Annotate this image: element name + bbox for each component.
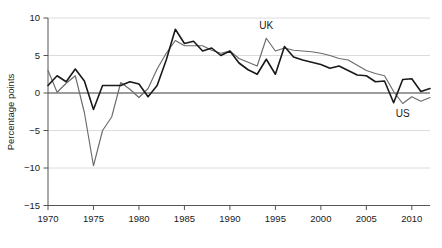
y-tick-label: 10: [29, 12, 40, 23]
chart-figure: 1050−5−10−15 Percentage points 197019751…: [0, 0, 442, 248]
caption-strip: [0, 238, 442, 248]
y-tick-label: −10: [24, 162, 40, 173]
us-series-label: US: [396, 108, 410, 119]
x-tick-label: 1975: [83, 213, 104, 224]
x-tick-label: 1970: [37, 213, 58, 224]
y-axis-title: Percentage points: [5, 73, 16, 150]
x-tick-label: 2000: [310, 213, 331, 224]
x-tick-label: 1985: [174, 213, 195, 224]
x-tick-label: 1990: [219, 213, 240, 224]
x-tick-label: 1995: [265, 213, 286, 224]
line-chart: 1050−5−10−15 Percentage points 197019751…: [0, 0, 442, 248]
uk-series-label: UK: [259, 20, 273, 31]
x-axis-tick-labels: 197019751980198519901995200020052010: [37, 213, 422, 224]
y-tick-label: −5: [29, 125, 40, 136]
x-tick-label: 1980: [128, 213, 149, 224]
x-tick-label: 2005: [356, 213, 377, 224]
y-tick-label: −15: [24, 200, 40, 211]
y-tick-label: 5: [35, 50, 40, 61]
y-tick-label: 0: [35, 87, 40, 98]
x-tick-label: 2010: [401, 213, 422, 224]
chart-background: [0, 0, 442, 248]
